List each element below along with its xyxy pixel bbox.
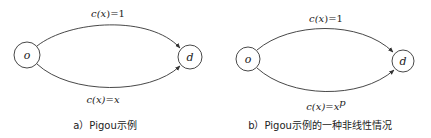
- edge-top-b: [257, 29, 393, 53]
- caption-a: a）Pigou示例: [73, 119, 137, 131]
- node-d-b-label: d: [399, 55, 406, 68]
- edge-top-a: [37, 25, 180, 48]
- pigou-diagrams: o d c(x)=1 c(x)=x a）Pigou示例 o d c(x)=1 c…: [0, 0, 431, 138]
- node-o-a-label: o: [24, 49, 31, 62]
- cost-label-bottom-a: c(x)=x: [86, 94, 119, 105]
- cost-label-top-a: c(x)=1: [91, 8, 125, 19]
- node-d-a-label: d: [186, 51, 193, 64]
- node-o-b-label: o: [245, 53, 252, 66]
- cost-label-top-b: c(x)=1: [309, 13, 343, 24]
- edge-bottom-a: [37, 64, 180, 88]
- diagram-b: o d c(x)=1 c(x)=xp b）Pigou示例的一种非线性情况: [236, 13, 414, 131]
- diagram-a: o d c(x)=1 c(x)=x a）Pigou示例: [14, 8, 202, 131]
- edge-bottom-b: [257, 68, 394, 92]
- cost-label-bottom-b: c(x)=xp: [306, 97, 346, 112]
- caption-b: b）Pigou示例的一种非线性情况: [248, 119, 392, 131]
